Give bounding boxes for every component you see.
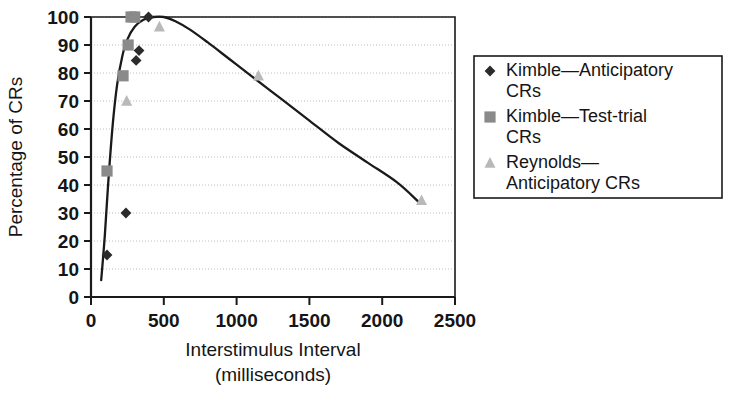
data-point-s2-5 xyxy=(129,11,140,22)
legend-label-1-line1: Kimble—Anticipatory xyxy=(506,60,673,80)
y-axis-ticks: 0102030405060708090100 xyxy=(47,7,91,308)
y-tick-label-50: 50 xyxy=(58,147,79,168)
legend-label-3-line2: Anticipatory CRs xyxy=(506,173,640,193)
legend-marker-2-square-icon xyxy=(484,111,495,122)
legend-label-3-line1: Reynolds— xyxy=(506,152,599,172)
y-tick-label-70: 70 xyxy=(58,91,79,112)
data-point-s2-2 xyxy=(117,70,128,81)
x-axis-ticks: 05001000150020002500 xyxy=(86,297,476,331)
y-tick-label-80: 80 xyxy=(58,63,79,84)
y-tick-label-90: 90 xyxy=(58,35,79,56)
x-tick-label-2000: 2000 xyxy=(361,310,403,331)
y-tick-label-0: 0 xyxy=(68,287,79,308)
y-tick-label-60: 60 xyxy=(58,119,79,140)
legend-label-1-line2: CRs xyxy=(506,81,541,101)
x-tick-label-1000: 1000 xyxy=(215,310,257,331)
legend-label-2-line2: CRs xyxy=(506,127,541,147)
y-tick-label-30: 30 xyxy=(58,203,79,224)
y-tick-label-20: 20 xyxy=(58,231,79,252)
data-point-s2-3 xyxy=(123,39,134,50)
x-tick-label-1500: 1500 xyxy=(288,310,330,331)
chart-figure: 0102030405060708090100 05001000150020002… xyxy=(0,0,730,396)
y-tick-label-10: 10 xyxy=(58,259,79,280)
scatter-chart: 0102030405060708090100 05001000150020002… xyxy=(0,0,730,396)
x-tick-label-0: 0 xyxy=(86,310,97,331)
x-axis-title-line1: Interstimulus Interval xyxy=(185,339,360,360)
y-tick-label-100: 100 xyxy=(47,7,79,28)
data-point-s2-1 xyxy=(101,165,112,176)
x-tick-label-2500: 2500 xyxy=(434,310,476,331)
y-axis-title: Percentage of CRs xyxy=(5,77,26,238)
x-tick-label-500: 500 xyxy=(148,310,180,331)
y-tick-label-40: 40 xyxy=(58,175,79,196)
legend-label-2-line1: Kimble—Test-trial xyxy=(506,106,647,126)
x-axis-title-line2: (milliseconds) xyxy=(215,364,331,385)
